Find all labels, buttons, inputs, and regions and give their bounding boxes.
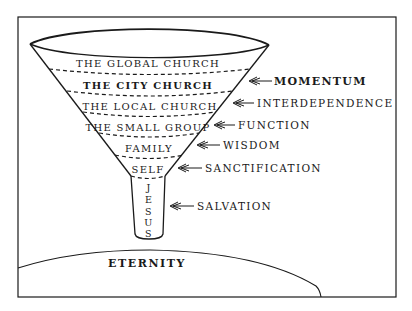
- spout-letter: S: [145, 228, 153, 239]
- spout-letter: J: [145, 182, 151, 193]
- annotation-function: FUNCTION: [238, 119, 311, 131]
- band-label-local-church: THE LOCAL CHURCH: [83, 101, 218, 112]
- arrow-left-icon: [197, 141, 220, 149]
- arrow-left-icon: [178, 164, 202, 172]
- funnel-rim: [30, 29, 269, 58]
- funnel-diagram: THE GLOBAL CHURCH THE CITY CHURCH THE LO…: [0, 0, 412, 311]
- spout-letter: S: [145, 206, 153, 217]
- spout-label-jesus: J E S U S: [144, 182, 153, 239]
- eternity-label: ETERNITY: [108, 257, 186, 270]
- arrow-left-icon: [170, 202, 194, 210]
- arrow-left-icon: [214, 121, 235, 129]
- spout-letter: U: [144, 217, 153, 228]
- band-label-self: SELF: [132, 164, 165, 175]
- band-label-family: FAMILY: [125, 143, 173, 154]
- annotation-momentum: MOMENTUM: [274, 75, 367, 88]
- arrow-left-icon: [233, 99, 254, 107]
- arrow-left-icon: [249, 77, 272, 85]
- annotation-sanctification: SANCTIFICATION: [205, 162, 322, 174]
- band-label-city-church: THE CITY CHURCH: [83, 80, 213, 91]
- annotation-salvation: SALVATION: [197, 200, 272, 212]
- annotation-interdependence: INTERDEPENDENCE: [257, 97, 393, 109]
- annotation-wisdom: WISDOM: [223, 139, 281, 151]
- spout-letter: E: [145, 194, 153, 205]
- band-label-global-church: THE GLOBAL CHURCH: [76, 58, 220, 69]
- band-label-small-group: THE SMALL GROUP: [85, 122, 210, 133]
